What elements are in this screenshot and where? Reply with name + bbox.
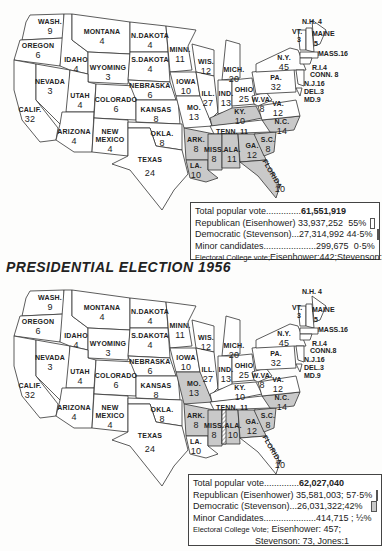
election-map-1952: WASH.9 OREGON6 CALIF.32 NEVADA3 IDAHO4 M… <box>0 0 382 250</box>
label-ky: KY.10 <box>234 384 246 403</box>
label-wyoming: WYOMING3 <box>90 64 126 83</box>
label-utah: UTAH4 <box>70 92 90 111</box>
legend-democratic: Democratic (Stevenson)...27,314,992 44·5… <box>195 229 375 241</box>
label-ny: N.Y.45 <box>277 54 291 73</box>
label-mich: MICH.20 <box>224 66 245 85</box>
label-mass: MASS.16 <box>318 50 348 57</box>
label-tenn: TENN. 11 <box>216 404 248 412</box>
label-calif: CALIF.32 <box>19 106 42 125</box>
label-vt: VT. <box>292 28 302 35</box>
democratic-swatch <box>377 229 379 240</box>
legend-democratic: Democratic (Stevenson)...26,031,322;42% <box>193 501 377 513</box>
label-wyoming: WYOMING3 <box>90 340 126 359</box>
label-ind: IND.13 <box>219 366 234 385</box>
label-okla: OKLA.8 <box>151 406 174 425</box>
label-ark: ARK.8 <box>187 136 205 155</box>
legend-electoral-2: Stevenson: 73, Jones:1 <box>193 536 377 548</box>
label-nevada: NEVADA3 <box>35 354 65 373</box>
label-kansas: KANSAS8 <box>141 106 172 125</box>
label-ri: R.I.4 <box>312 64 327 71</box>
page-title-1956: PRESIDENTIAL ELECTION 1956 <box>6 259 231 275</box>
label-texas: TEXAS24 <box>138 432 162 455</box>
legend-minor: Minor candidates.....................299… <box>195 241 375 253</box>
label-miss: MISS.8 <box>204 146 224 165</box>
legend-total: Total popular vote..............61,551,9… <box>195 206 375 218</box>
label-texas: TEXAS24 <box>138 156 162 179</box>
legend-republican: Republican (Eisenhower) 35,581,003; 57·5… <box>193 490 377 502</box>
label-tenn: TENN. 11 <box>216 128 248 136</box>
label-kansas: KANSAS8 <box>141 382 172 401</box>
label-ala: ALA.10 <box>224 422 241 441</box>
label-montana: MONTANA4 <box>84 28 121 47</box>
label-miss: MISS.8 <box>204 422 224 441</box>
label-idaho: IDAHO4 <box>64 332 88 351</box>
label-ind: IND.13 <box>219 90 234 109</box>
label-vt-ev: 3 <box>297 36 301 43</box>
label-vt-ev: 3 <box>297 312 301 319</box>
label-okla: OKLA.8 <box>151 130 174 149</box>
label-sc: S.C.8 <box>261 412 275 431</box>
label-md: MD.9 <box>304 372 321 379</box>
label-wis: WIS.12 <box>198 58 214 77</box>
label-calif: CALIF.32 <box>19 382 42 401</box>
democratic-swatch <box>371 501 377 512</box>
label-wva: W.VA.8 <box>252 372 272 391</box>
label-newmexico: NEW MEXICO4 <box>95 404 125 431</box>
election-map-1956: WASH.9 OREGON6 CALIF.32 NEVADA3 IDAHO4 M… <box>0 276 382 551</box>
label-montana: MONTANA4 <box>84 304 121 323</box>
label-ill: ILL.27 <box>201 366 214 385</box>
label-maine: MAINE <box>312 30 335 37</box>
label-maine: MAINE <box>312 306 335 313</box>
label-ky: KY.10 <box>234 108 246 127</box>
label-newmexico: NEW MEXICO4 <box>95 128 125 155</box>
label-conn: CONN.8 <box>310 347 336 354</box>
republican-swatch <box>370 218 375 229</box>
label-ndakota: N.DAKOTA4 <box>131 308 169 327</box>
label-sc: S.C.8 <box>261 136 275 155</box>
label-ri: R.I.4 <box>312 340 327 347</box>
state-md <box>296 88 302 96</box>
label-minn: MINN.11 <box>170 322 191 341</box>
state-nj <box>296 70 304 86</box>
label-va: VA.12 <box>272 376 284 395</box>
label-mass: MASS.16 <box>318 326 348 333</box>
label-ohio: OHIO25 <box>235 86 254 105</box>
label-maine-ev: 5 <box>314 316 318 323</box>
legend-minor: Minor Candidates.....................414… <box>193 513 377 525</box>
legend-total: Total popular vote..............62,027,0… <box>193 478 377 490</box>
label-mo: MO.13 <box>187 380 201 399</box>
label-vt: VT. <box>292 304 302 311</box>
label-ny: N.Y.45 <box>277 330 291 349</box>
label-nj: N.J.16 <box>304 80 325 87</box>
label-arizona: ARIZONA4 <box>57 128 90 147</box>
label-arizona: ARIZONA4 <box>57 404 90 423</box>
legend-1956: Total popular vote..............62,027,0… <box>188 474 382 546</box>
legend-electoral: Electoral College Vote; Eisenhower: 457; <box>193 524 377 536</box>
label-oregon: OREGON6 <box>22 42 54 61</box>
republican-swatch <box>376 490 378 501</box>
label-nh: N.H. 4 <box>302 288 322 295</box>
label-maine-ev: 5 <box>314 40 318 47</box>
label-sdakota: S.DAKOTA4 <box>131 332 169 351</box>
label-mich: MICH.20 <box>224 342 245 361</box>
label-florida-ev: 10 <box>275 460 285 471</box>
label-pa: PA.32 <box>270 74 282 93</box>
label-va: VA.12 <box>272 100 284 119</box>
label-nebraska: NEBRASKA6 <box>129 82 170 101</box>
label-nj: N.J.16 <box>304 356 325 363</box>
label-md: MD.9 <box>304 96 321 103</box>
label-la: LA.10 <box>190 162 202 181</box>
legend-republican: Republican (Eisenhower) 33,937,252 55% <box>195 218 375 230</box>
label-ohio: OHIO25 <box>235 362 254 381</box>
label-wva: W.VA.8 <box>252 96 272 115</box>
label-ga: GA.12 <box>245 142 258 161</box>
label-ala: ALA.11 <box>223 146 240 165</box>
label-florida-ev: 10 <box>275 184 285 195</box>
label-del: DEL.3 <box>304 88 324 95</box>
label-nevada: NEVADA3 <box>35 78 65 97</box>
label-minn: MINN.11 <box>170 46 191 65</box>
label-nc: N.C.14 <box>275 394 290 413</box>
label-iowa: IOWA10 <box>176 78 195 97</box>
label-oregon: OREGON6 <box>22 318 54 337</box>
label-iowa: IOWA10 <box>176 354 195 373</box>
